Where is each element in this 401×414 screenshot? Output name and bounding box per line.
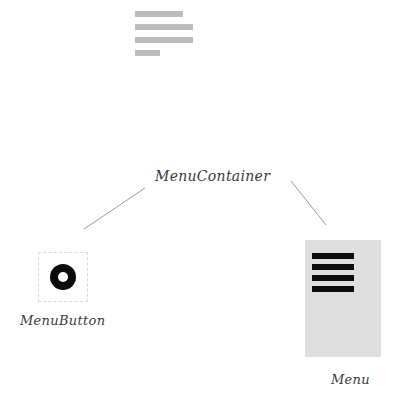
connector-left-line [84,188,145,229]
menu-item-list [312,253,354,297]
text-line [135,24,193,30]
connector-right-line [291,181,326,225]
text-line [135,11,183,17]
menu-panel-node[interactable] [305,240,381,357]
menu-item[interactable] [312,286,354,292]
menu-item[interactable] [312,253,354,259]
circle-ring-icon [50,264,76,290]
connector-right [291,181,327,226]
menu-button-node[interactable] [38,252,88,302]
menu-container-label: MenuContainer [155,168,270,184]
menu-item[interactable] [312,275,354,281]
menu-button-label: MenuButton [20,313,105,328]
connector-left [84,188,146,230]
menu-item[interactable] [312,264,354,270]
menu-panel-label: Menu [331,372,370,387]
diagram-canvas: MenuContainer MenuButton Menu [0,0,401,414]
text-line [135,50,160,56]
text-line [135,37,193,43]
text-lines-block [135,11,195,63]
